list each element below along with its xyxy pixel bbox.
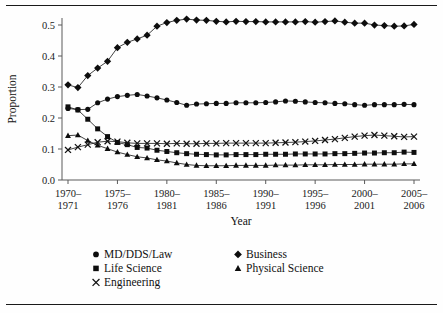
data-point-marker [313, 151, 318, 156]
y-tick-label: 0.1 [42, 144, 55, 155]
data-point-marker [85, 107, 90, 112]
data-point-marker [242, 18, 249, 25]
data-point-marker [163, 19, 170, 26]
data-point-marker [233, 162, 239, 167]
chart-plot-area: 0.00.10.20.30.40.51970–19711975–19761980… [0, 0, 443, 313]
data-point-marker [183, 15, 190, 22]
data-point-marker [411, 161, 417, 166]
legend-label: MD/DDS/Law [104, 248, 173, 260]
data-point-marker [64, 81, 71, 88]
data-point-marker [342, 101, 347, 106]
data-point-marker [410, 21, 417, 28]
data-point-marker [402, 102, 407, 107]
data-point-marker [104, 58, 111, 65]
chart-series-layer [64, 15, 417, 167]
data-point-marker [75, 107, 80, 112]
data-point-marker [203, 17, 210, 24]
data-point-marker [293, 151, 298, 156]
x-tick-label-line2: 1971 [58, 200, 79, 211]
data-point-marker [85, 117, 90, 122]
series-line [68, 107, 414, 155]
series-physical-science [65, 132, 417, 168]
series-md-dds-law [65, 92, 416, 112]
legend-item-md-dds-law[interactable]: MD/DDS/Law [93, 248, 173, 260]
legend-item-physical-science[interactable]: Physical Science [235, 262, 324, 275]
data-point-marker [234, 152, 239, 157]
x-tick-label-line1: 1980– [154, 188, 181, 199]
data-point-marker [125, 93, 130, 98]
data-point-marker [164, 97, 169, 102]
legend-label: Physical Science [246, 262, 324, 275]
data-point-marker [213, 163, 219, 168]
y-tick-label: 0.0 [42, 175, 55, 186]
data-point-marker [233, 100, 238, 105]
figure-container: 0.00.10.20.30.40.51970–19711975–19761980… [0, 0, 443, 313]
data-point-marker [173, 17, 180, 24]
data-point-marker [134, 35, 141, 42]
legend-item-engineering[interactable]: Engineering [93, 276, 161, 289]
data-point-marker [332, 101, 337, 106]
y-tick-label: 0.2 [42, 113, 55, 124]
data-point-marker [362, 151, 367, 156]
data-point-marker [283, 152, 288, 157]
data-point-marker [312, 19, 319, 26]
data-point-marker [154, 148, 159, 153]
data-point-marker [361, 20, 368, 27]
data-point-marker [352, 102, 357, 107]
x-tick-label-line2: 2006 [404, 200, 425, 211]
data-point-marker [214, 101, 219, 106]
x-tick-label-line1: 2000– [351, 188, 378, 199]
y-axis-title: Proportion [6, 74, 19, 123]
data-point-marker [400, 22, 407, 29]
series-line [68, 19, 414, 88]
x-tick-label-line2: 1981 [156, 200, 177, 211]
x-tick-label-line2: 1986 [206, 200, 227, 211]
data-point-marker [263, 100, 268, 105]
data-point-marker [272, 18, 279, 25]
data-point-marker [342, 161, 348, 166]
data-point-marker [115, 94, 120, 99]
series-life-science [66, 104, 417, 157]
legend-item-life-science[interactable]: Life Science [93, 262, 162, 274]
data-point-marker [193, 16, 200, 23]
data-point-marker [184, 151, 189, 156]
data-point-marker [411, 102, 416, 107]
data-point-marker [392, 150, 397, 155]
data-point-marker [303, 99, 308, 104]
data-point-marker [114, 44, 121, 51]
data-point-marker [341, 19, 348, 26]
data-point-marker [412, 150, 417, 155]
data-point-marker [66, 104, 71, 109]
data-point-marker [145, 146, 150, 151]
data-point-marker [253, 162, 259, 167]
chart-legend: MD/DDS/LawBusinessLife SciencePhysical S… [93, 248, 324, 289]
data-point-marker [362, 161, 368, 166]
data-point-marker [382, 150, 387, 155]
data-point-marker [313, 100, 318, 105]
data-point-marker [273, 152, 278, 157]
data-point-marker [283, 98, 288, 103]
data-point-marker [372, 151, 377, 156]
y-tick-label: 0.4 [42, 51, 56, 62]
data-point-marker [381, 22, 388, 29]
legend-marker-cross-icon [93, 279, 100, 286]
data-point-marker [105, 97, 110, 102]
data-point-marker [252, 18, 259, 25]
data-point-marker [232, 18, 239, 25]
data-point-marker [282, 18, 289, 25]
x-tick-label-line1: 1990– [253, 188, 280, 199]
data-point-marker [95, 126, 100, 131]
data-point-marker [243, 162, 249, 167]
data-point-marker [223, 18, 230, 25]
data-point-marker [65, 147, 71, 153]
data-point-marker [224, 101, 229, 106]
x-tick-label-line2: 2001 [354, 200, 375, 211]
data-point-marker [253, 100, 258, 105]
legend-item-business[interactable]: Business [234, 248, 287, 260]
x-tick-label-line1: 1970– [55, 188, 82, 199]
series-business [64, 15, 417, 91]
data-point-marker [312, 162, 318, 167]
chart-axes [58, 18, 420, 184]
data-point-marker [292, 18, 299, 25]
y-tick-label: 0.5 [42, 20, 55, 31]
